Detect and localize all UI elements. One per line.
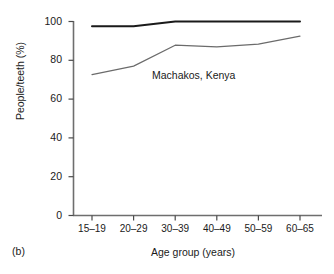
y-axis-title: People/teeth (%) [14, 26, 26, 136]
y-axis-tick-label: 100 [36, 16, 62, 27]
y-axis-tick-label: 0 [36, 210, 62, 221]
y-axis-tick-label: 20 [36, 171, 62, 182]
y-axis-tick-label: 80 [36, 54, 62, 65]
series-annotation-label: Machakos, Kenya [152, 69, 235, 81]
y-axis-tick-label: 60 [36, 93, 62, 104]
y-axis-tick-label: 40 [36, 132, 62, 143]
series-line-upper [92, 22, 300, 27]
x-axis-tick-label: 60–65 [276, 223, 324, 234]
panel-label: (b) [12, 245, 25, 257]
figure-panel-b: 020406080100 15–1920–2930–3940–4950–5960… [0, 0, 334, 274]
x-axis-title: Age group (years) [73, 246, 313, 258]
